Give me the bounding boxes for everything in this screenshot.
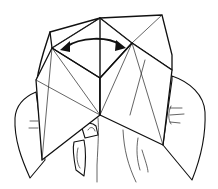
- left-front-flap: [36, 48, 100, 160]
- illustration: [0, 0, 218, 189]
- fortune-teller-drawing: [0, 0, 218, 189]
- double-arrow-icon: [60, 39, 126, 52]
